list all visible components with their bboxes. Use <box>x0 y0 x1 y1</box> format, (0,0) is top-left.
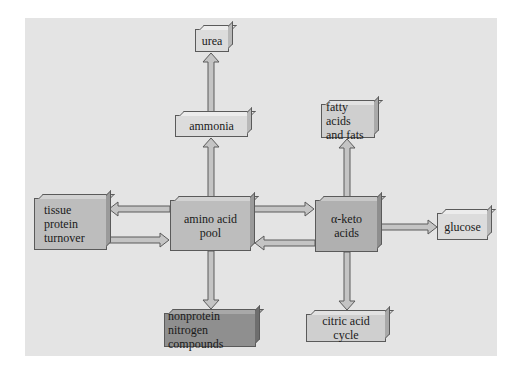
node-glucose: glucose <box>437 213 488 240</box>
node-tissue-line2: turnover <box>44 231 85 245</box>
node-nonprotein-nitrogen: nonprotein nitrogen compounds <box>164 313 256 347</box>
node-nonprotein-line2: nitrogen compounds <box>168 323 252 351</box>
node-alpha-keto-acids: α-keto acids <box>315 200 378 252</box>
node-urea: urea <box>195 29 229 52</box>
arrow-keto-to-glucose <box>380 220 437 234</box>
node-ammonia-label: ammonia <box>189 119 234 133</box>
node-fatty-acids-line2: and fats <box>326 128 364 142</box>
arrow-keto-to-pool <box>255 236 315 250</box>
node-amino-acid-pool: amino acid pool <box>170 200 251 251</box>
arrow-keto-to-fatty <box>339 139 355 197</box>
node-tissue-protein-turnover: tissue protein turnover <box>34 198 107 250</box>
arrow-keto-to-citric <box>339 252 355 310</box>
arrow-pool-to-keto <box>254 202 314 216</box>
node-fatty-acids-line1: fatty acids <box>326 100 370 128</box>
arrow-tissue-to-pool <box>108 233 169 247</box>
node-citric-label: citric acid cycle <box>313 314 379 342</box>
arrow-pool-to-ammonia <box>203 138 219 197</box>
node-citric-acid-cycle: citric acid cycle <box>306 314 386 342</box>
arrow-pool-to-nonprotein <box>203 251 219 309</box>
arrow-pool-to-tissue <box>109 202 170 216</box>
node-ammonia: ammonia <box>175 115 248 137</box>
node-nonprotein-line1: nonprotein <box>168 309 220 323</box>
node-urea-label: urea <box>202 34 223 48</box>
arrow-ammonia-to-urea <box>203 53 219 112</box>
node-keto-label: α-keto acids <box>322 212 371 240</box>
node-pool-label: amino acid pool <box>177 212 244 240</box>
node-fatty-acids: fatty acids and fats <box>321 104 375 138</box>
node-tissue-line1: tissue protein <box>44 203 97 231</box>
node-glucose-label: glucose <box>444 220 481 234</box>
